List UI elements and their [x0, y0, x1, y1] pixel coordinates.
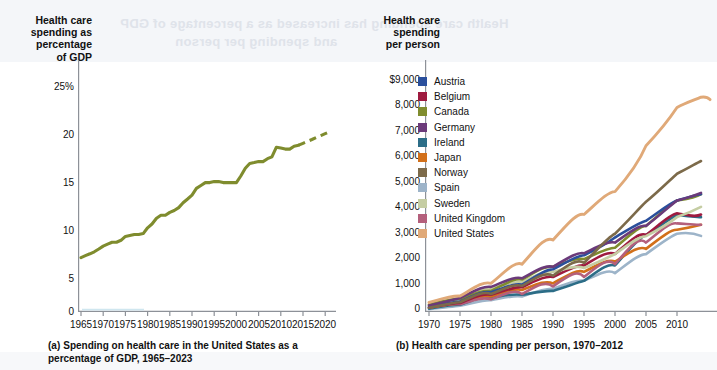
panel-a-ytick-0: 0 [40, 306, 74, 317]
legend-item-norway: Norway [418, 165, 505, 180]
panel-b-ytick-9000: $9,000 [370, 74, 420, 85]
legend-swatch-austria [418, 77, 427, 86]
panel-b-ytick-6000: 6,000 [370, 150, 420, 161]
legend-label-spain: Spain [434, 182, 460, 193]
panel-a-line-actual-clean [81, 145, 299, 257]
panel-a-ytick-10: 10 [40, 225, 74, 236]
panel-a-ytick-5: 5 [40, 273, 74, 284]
panel-b-xtick-2010: 2010 [657, 319, 697, 330]
legend-label-united-kingdom: United Kingdom [434, 213, 505, 224]
chart-legend: Austria Belgium Canada Germany Ireland J… [418, 74, 505, 241]
panel-b-ytick-5000: 5,000 [370, 176, 420, 187]
panel-a-x-ticks [81, 311, 325, 316]
panel-b-ytick-8000: 8,000 [370, 99, 420, 110]
panel-b-ytick-1000: 1,000 [370, 278, 420, 289]
panel-b-caption-label: (b) [396, 340, 409, 351]
legend-swatch-germany [418, 123, 427, 132]
legend-label-united-states: United States [434, 228, 494, 239]
legend-label-germany: Germany [434, 122, 475, 133]
legend-item-canada: Canada [418, 104, 505, 119]
panel-b-ytick-0: 0 [370, 303, 420, 314]
legend-swatch-norway [418, 168, 427, 177]
panel-b-ytick-2000: 2,000 [370, 252, 420, 263]
panel-a-line-projected [299, 131, 331, 145]
panel-b-ytick-4000: 4,000 [370, 201, 420, 212]
panel-b-caption-text: Health care spending per person, 1970–20… [412, 340, 623, 351]
panel-a-caption: (a)Spending on health care in the United… [48, 339, 348, 365]
legend-swatch-ireland [418, 138, 427, 147]
panel-a-ytick-25: 25% [40, 81, 74, 92]
panel-b-y-axis-title: Health carespendingper person [348, 14, 440, 51]
panel-b-ytick-7000: 7,000 [370, 125, 420, 136]
legend-swatch-united-kingdom [418, 214, 427, 223]
panel-a-plot [78, 60, 336, 320]
chart-panel-b: Health carespendingper person $9,000 8,0… [360, 0, 717, 370]
legend-item-united-kingdom: United Kingdom [418, 211, 505, 226]
legend-label-japan: Japan [434, 152, 461, 163]
legend-item-austria: Austria [418, 74, 505, 89]
legend-label-belgium: Belgium [434, 91, 470, 102]
legend-label-canada: Canada [434, 106, 469, 117]
legend-label-sweden: Sweden [434, 198, 470, 209]
legend-item-belgium: Belgium [418, 89, 505, 104]
panel-b-caption: (b)Health care spending per person, 1970… [396, 339, 716, 352]
panel-a-ytick-20: 20 [40, 129, 74, 140]
legend-swatch-belgium [418, 92, 427, 101]
legend-item-sweden: Sweden [418, 196, 505, 211]
panel-a-caption-label: (a) [48, 340, 60, 351]
legend-label-austria: Austria [434, 76, 465, 87]
legend-item-germany: Germany [418, 120, 505, 135]
panel-a-xtick-2020: 2020 [305, 319, 345, 330]
legend-item-united-states: United States [418, 226, 505, 241]
legend-swatch-canada [418, 107, 427, 116]
legend-swatch-united-states [418, 229, 427, 238]
legend-label-norway: Norway [434, 167, 468, 178]
legend-swatch-spain [418, 183, 427, 192]
panel-a-caption-text: Spending on health care in the United St… [48, 340, 298, 364]
legend-label-ireland: Ireland [434, 137, 465, 148]
legend-item-spain: Spain [418, 180, 505, 195]
panel-b-ytick-3000: 3,000 [370, 227, 420, 238]
chart-panel-a: Health carespending aspercentageof GDP 2… [0, 0, 360, 370]
panel-b-x-ticks [429, 311, 677, 316]
legend-swatch-sweden [418, 199, 427, 208]
panel-a-ytick-15: 15 [40, 177, 74, 188]
legend-item-japan: Japan [418, 150, 505, 165]
legend-swatch-japan [418, 153, 427, 162]
legend-item-ireland: Ireland [418, 135, 505, 150]
panel-a-y-axis-title: Health carespending aspercentageof GDP [0, 14, 92, 63]
